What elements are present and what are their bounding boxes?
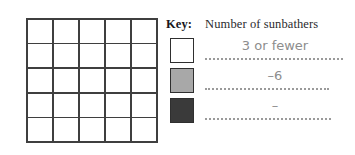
key-answer-text[interactable]: –6 xyxy=(204,67,346,84)
grid-cell[interactable] xyxy=(80,118,104,141)
grid-cell[interactable] xyxy=(80,94,104,117)
key-answer-slot: –6 xyxy=(204,66,350,96)
grid-cell[interactable] xyxy=(28,94,52,117)
dotted-answer-line xyxy=(205,55,343,60)
grid-cell[interactable] xyxy=(106,44,130,67)
key-answer-slot: – xyxy=(204,96,350,126)
key-legend: Key: Number of sunbathers 3 or fewer –6 … xyxy=(166,14,351,144)
key-answer-text[interactable]: – xyxy=(204,97,346,114)
grid-cell[interactable] xyxy=(132,118,156,141)
key-answer-text[interactable]: 3 or fewer xyxy=(204,37,346,54)
grid-cell[interactable] xyxy=(54,69,78,92)
grid-cell[interactable] xyxy=(54,94,78,117)
grid-cell[interactable] xyxy=(28,118,52,141)
grid-cell[interactable] xyxy=(28,69,52,92)
sunbathers-grid xyxy=(26,18,158,143)
grid-cell[interactable] xyxy=(132,20,156,43)
key-row: 3 or fewer xyxy=(166,36,351,66)
key-row: – xyxy=(166,96,351,126)
grid-cell[interactable] xyxy=(106,118,130,141)
key-answer-slot: 3 or fewer xyxy=(204,36,350,66)
grid-cell[interactable] xyxy=(80,44,104,67)
grid-cell[interactable] xyxy=(132,69,156,92)
grid-cell[interactable] xyxy=(54,44,78,67)
grid-cell[interactable] xyxy=(106,69,130,92)
grid-cell[interactable] xyxy=(80,20,104,43)
key-title: Number of sunbathers xyxy=(205,17,318,31)
grid-cell[interactable] xyxy=(80,69,104,92)
key-header: Key: Number of sunbathers xyxy=(166,14,318,32)
grid-cell[interactable] xyxy=(132,94,156,117)
grid-cell[interactable] xyxy=(54,118,78,141)
key-swatch-dark xyxy=(170,98,194,123)
grid-cell[interactable] xyxy=(106,94,130,117)
key-swatch-white xyxy=(170,38,194,63)
grid-cell[interactable] xyxy=(106,20,130,43)
grid-cell[interactable] xyxy=(28,20,52,43)
key-swatch-grey xyxy=(170,68,194,93)
grid-cell[interactable] xyxy=(28,44,52,67)
grid-cell[interactable] xyxy=(132,44,156,67)
key-row: –6 xyxy=(166,66,351,96)
dotted-answer-line xyxy=(205,115,331,120)
key-label: Key: xyxy=(166,17,192,31)
dotted-answer-line xyxy=(205,85,329,90)
grid-cell[interactable] xyxy=(54,20,78,43)
worksheet-page: Key: Number of sunbathers 3 or fewer –6 … xyxy=(0,0,355,155)
